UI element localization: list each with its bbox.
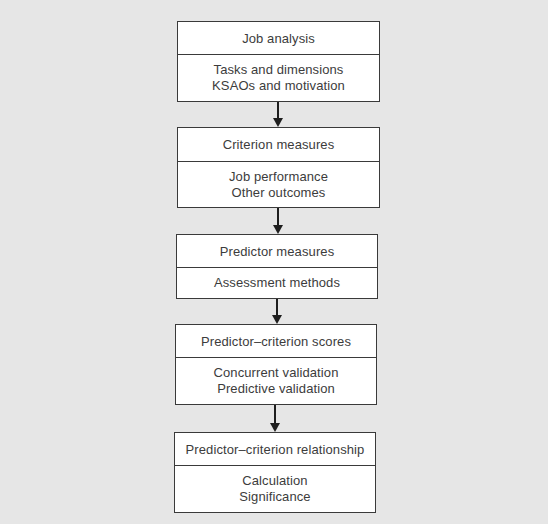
step-detail-line: Predictive validation	[217, 381, 335, 397]
step-details: Calculation Significance	[175, 466, 375, 512]
step-title: Predictor–criterion relationship	[175, 433, 375, 466]
step-title-text: Predictor measures	[220, 244, 335, 259]
step-detail-line: Tasks and dimensions	[214, 62, 344, 78]
step-title: Predictor measures	[177, 235, 377, 268]
step-predictor-criterion-scores: Predictor–criterion scores Concurrent va…	[175, 324, 377, 405]
step-job-analysis: Job analysis Tasks and dimensions KSAOs …	[177, 21, 380, 102]
step-details: Tasks and dimensions KSAOs and motivatio…	[178, 55, 379, 101]
step-detail-line: Concurrent validation	[214, 365, 339, 381]
step-title-text: Job analysis	[242, 31, 315, 46]
step-criterion-measures: Criterion measures Job performance Other…	[177, 127, 380, 208]
step-title-text: Criterion measures	[223, 137, 335, 152]
step-title: Job analysis	[178, 22, 379, 55]
step-title-text: Predictor–criterion scores	[201, 334, 351, 349]
step-detail-line: Calculation	[242, 473, 307, 489]
step-details: Concurrent validation Predictive validat…	[176, 358, 376, 404]
step-predictor-criterion-relationship: Predictor–criterion relationship Calcula…	[174, 432, 376, 513]
step-title-text: Predictor–criterion relationship	[186, 442, 365, 457]
step-details: Job performance Other outcomes	[178, 162, 379, 207]
step-detail-line: Assessment methods	[214, 275, 340, 291]
step-title: Predictor–criterion scores	[176, 325, 376, 358]
diagram-canvas: Job analysis Tasks and dimensions KSAOs …	[0, 0, 548, 524]
step-title: Criterion measures	[178, 128, 379, 162]
step-detail-line: Other outcomes	[232, 185, 326, 201]
step-detail-line: KSAOs and motivation	[212, 78, 345, 94]
step-predictor-measures: Predictor measures Assessment methods	[176, 234, 378, 299]
step-details: Assessment methods	[177, 268, 377, 298]
step-detail-line: Significance	[239, 489, 310, 505]
step-detail-line: Job performance	[229, 169, 328, 185]
